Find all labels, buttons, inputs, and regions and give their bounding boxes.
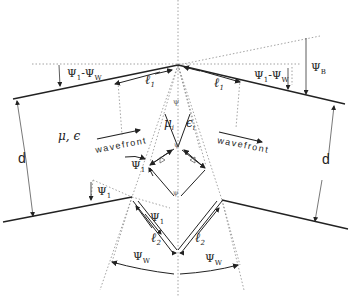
subscript: 2 <box>200 239 204 247</box>
label-l2-left: ℓ2 <box>151 231 161 247</box>
label-mu-eps-outer: μ, ϵ <box>58 130 80 142</box>
label-d-right: d <box>322 152 330 166</box>
subscript: 1 <box>107 192 111 200</box>
label-psi1-upper: Ψ1 <box>131 160 145 174</box>
lower-v <box>133 201 222 253</box>
psi-symbol: Ψ <box>85 67 95 80</box>
psi-symbol: Ψ <box>131 159 141 172</box>
label-psi1-minus-psiw-right: Ψ1-ΨW <box>254 70 289 84</box>
subscript: 1 <box>219 84 223 92</box>
label-psi1-inner: Ψ1 <box>150 212 164 226</box>
label-apex-bottom-mark: ψ <box>173 190 179 197</box>
psi-symbol: Ψ <box>67 67 77 80</box>
mu-symbol: μ <box>164 116 172 130</box>
psi-symbol: Ψ <box>133 250 143 263</box>
label-eps-inner: ϵi <box>186 117 195 132</box>
label-mu-inner: μi <box>164 117 174 132</box>
label-psiw-left: ΨW <box>133 251 150 265</box>
label-psi-b: ΨB <box>311 62 326 76</box>
psi-symbol: Ψ <box>205 252 215 265</box>
d-dimension-arrows <box>17 101 334 221</box>
subscript: 1 <box>141 166 145 174</box>
psi-symbol: Ψ <box>272 69 282 82</box>
label-psi1-lower: Ψ1 <box>97 186 111 200</box>
subscript: W <box>215 259 222 267</box>
epsilon-symbol: ϵ <box>186 116 193 130</box>
label-d-left: d <box>18 151 26 165</box>
subscript: i <box>193 124 195 132</box>
subscript: i <box>172 124 174 132</box>
subscript: W <box>143 257 150 265</box>
subscript: 1 <box>160 218 164 226</box>
psi-symbol: Ψ <box>311 61 321 74</box>
subscript: B <box>321 68 326 76</box>
psi-symbol: Ψ <box>254 69 264 82</box>
subscript: W <box>95 74 102 82</box>
psi-symbol: Ψ <box>150 211 160 224</box>
subscript: 2 <box>156 239 160 247</box>
subscript: W <box>282 76 289 84</box>
label-psiw-right: ΨW <box>205 253 222 267</box>
label-l2-right: ℓ2 <box>195 231 205 247</box>
label-apex-top-mark: ψ <box>173 98 179 106</box>
psi-symbol: Ψ <box>97 185 107 198</box>
label-l1-right: ℓ1 <box>214 76 224 92</box>
label-psi1-minus-psiw-left: Ψ1-ΨW <box>67 68 102 82</box>
label-apex-inner-mark: ψ <box>174 142 180 149</box>
subscript: 1 <box>150 81 154 89</box>
inner-diamond <box>150 114 205 196</box>
label-l1-left: ℓ1 <box>145 73 155 89</box>
